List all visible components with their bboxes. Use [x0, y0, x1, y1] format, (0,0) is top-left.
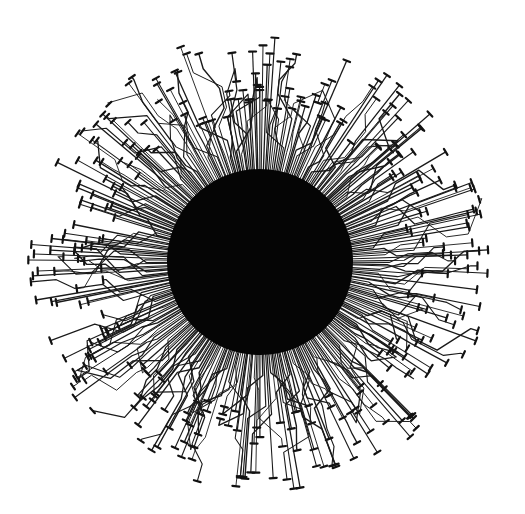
terminal-cap: [298, 96, 305, 98]
terminal-cap: [286, 88, 293, 89]
terminal-cap: [480, 211, 482, 218]
terminal-cap: [64, 230, 65, 237]
terminal-cap: [293, 54, 300, 55]
terminal-cap: [228, 52, 235, 53]
terminal-cap: [444, 243, 445, 250]
terminal-cap: [103, 276, 104, 283]
terminal-cap: [477, 286, 478, 293]
terminal-cap: [479, 303, 480, 310]
terminal-cap: [271, 38, 278, 39]
terminal-cap: [31, 278, 32, 285]
terminal-cap: [86, 237, 87, 244]
terminal-cap: [51, 298, 52, 305]
terminal-cap: [279, 446, 286, 447]
terminal-cap: [79, 301, 81, 308]
terminal-cap: [277, 422, 284, 423]
terminal-cap: [73, 221, 74, 228]
terminal-cap: [468, 223, 469, 230]
terminal-cap: [87, 298, 89, 305]
terminal-cap: [219, 414, 226, 416]
terminal-cap: [227, 99, 234, 100]
terminal-cap: [294, 450, 301, 451]
terminal-cap: [233, 81, 240, 82]
terminal-cap: [232, 411, 239, 412]
terminal-cap: [426, 235, 427, 242]
terminal-cap: [36, 297, 37, 304]
terminal-cap: [287, 59, 294, 60]
terminal-cap: [288, 428, 295, 429]
terminal-cap: [284, 479, 291, 480]
terminal-cap: [247, 99, 254, 100]
terminal-cap: [102, 235, 103, 242]
terminal-cap: [224, 116, 231, 118]
terminal-cap: [274, 108, 281, 109]
terminal-cap: [239, 90, 246, 91]
terminal-cap: [277, 61, 284, 62]
terminal-cap: [406, 225, 408, 232]
terminal-cap: [76, 285, 77, 292]
terminal-cap: [476, 208, 478, 215]
terminal-cap: [225, 425, 232, 426]
terminal-cap: [31, 241, 32, 248]
black-disc: [167, 169, 353, 355]
terminal-cap: [422, 270, 423, 277]
circuit-sun-artwork: [0, 0, 525, 514]
terminal-cap: [82, 245, 83, 252]
terminal-cap: [237, 477, 244, 478]
terminal-cap: [234, 430, 241, 431]
terminal-cap: [423, 239, 424, 246]
terminal-cap: [51, 235, 52, 242]
terminal-cap: [232, 486, 239, 487]
terminal-cap: [282, 96, 289, 97]
terminal-cap: [472, 239, 473, 246]
terminal-cap: [290, 488, 297, 489]
terminal-cap: [235, 99, 242, 100]
terminal-cap: [433, 295, 434, 302]
terminal-cap: [411, 228, 412, 235]
terminal-cap: [467, 211, 469, 218]
terminal-cap: [226, 91, 233, 92]
